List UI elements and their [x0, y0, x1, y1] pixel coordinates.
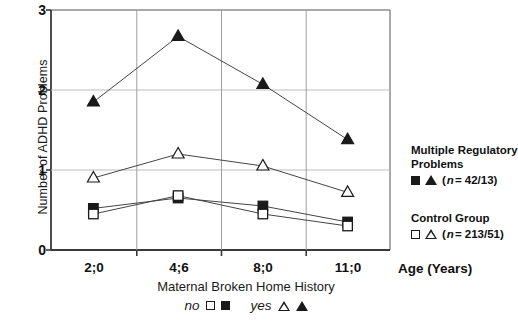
filled-triangle-icon: [425, 175, 437, 185]
legend-mrp-n-value: = 42/13): [455, 173, 498, 187]
series-layer: [87, 30, 353, 231]
series-2: [89, 193, 353, 227]
key-filled-square-icon: [221, 301, 230, 310]
legend-mrp-title-line1: Multiple Regulatory: [411, 143, 518, 157]
vertical-gridlines: [137, 10, 306, 250]
open-square-marker: [343, 221, 353, 231]
filled-triangle-marker: [172, 30, 184, 41]
filled-triangle-marker: [342, 133, 354, 144]
open-square-marker: [173, 191, 183, 201]
open-triangle-marker: [172, 147, 184, 158]
legend-control-title: Control Group: [411, 211, 504, 225]
legend-control-n-symbol: n: [447, 227, 454, 241]
open-square-icon: [411, 230, 420, 239]
series-line: [93, 36, 347, 139]
key-open-triangle-icon: [278, 301, 290, 311]
axis-frame: [51, 10, 390, 250]
legend-control-symbols: ( n = 213/51): [411, 227, 504, 241]
open-square-marker: [258, 209, 268, 219]
symbol-key-row: no yes: [96, 298, 396, 313]
series-1: [87, 147, 353, 196]
filled-triangle-marker: [87, 95, 99, 106]
legend-control-group: Control Group ( n = 213/51): [411, 211, 504, 241]
maternal-broken-home-history-label: Maternal Broken Home History: [96, 279, 396, 294]
series-0: [87, 30, 353, 144]
filled-triangle-marker: [257, 78, 269, 89]
legend-mrp-n-symbol: n: [447, 173, 454, 187]
legend-multiple-regulatory-problems: Multiple Regulatory Problems ( n = 42/13…: [411, 143, 518, 187]
series-3: [89, 191, 353, 231]
horizontal-gridlines: [51, 90, 390, 170]
symbol-key-yes-label: yes: [251, 298, 272, 313]
legend-mrp-n-prefix: (: [442, 173, 446, 187]
symbol-key-no-label: no: [184, 298, 199, 313]
open-triangle-marker: [257, 159, 269, 170]
open-square-marker: [89, 209, 99, 219]
series-line: [93, 198, 347, 222]
legend-control-n-value: = 213/51): [455, 227, 504, 241]
legend-mrp-symbols: ( n = 42/13): [411, 173, 518, 187]
filled-square-icon: [411, 176, 420, 185]
key-filled-triangle-icon: [296, 301, 308, 311]
legend-control-n-prefix: (: [442, 227, 446, 241]
key-open-square-icon: [206, 301, 215, 310]
open-triangle-icon: [425, 229, 437, 239]
legend-mrp-title-line2: Problems: [411, 157, 518, 171]
series-line: [93, 196, 347, 226]
series-line: [93, 154, 347, 192]
